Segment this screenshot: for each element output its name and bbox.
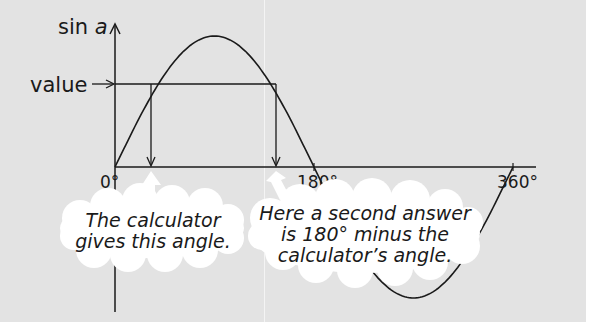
callout-text-line-3: calculator’s angle.	[278, 244, 452, 266]
callout-text-line-1: The calculator	[85, 209, 221, 231]
value-label: value	[30, 73, 87, 97]
callout-text-line-2: is 180° minus the	[281, 223, 449, 245]
callout-text-line-1: Here a second answer	[259, 202, 472, 224]
sine-diagram: sin a value 0° 180° 360° The calculator …	[0, 0, 598, 333]
x-tick-label-360: 360°	[497, 172, 538, 192]
y-axis-label: sin a	[58, 15, 108, 39]
callout-text-line-2: gives this angle.	[75, 230, 231, 252]
